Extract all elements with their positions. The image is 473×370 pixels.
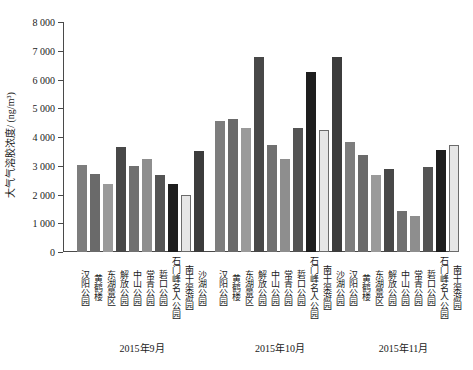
- category-label: 黄鹤楼: [358, 256, 371, 319]
- category-label: 石门峰名人公园: [306, 256, 319, 319]
- category-label: 汉阳公园: [215, 256, 228, 319]
- y-tick-label: 0: [50, 247, 55, 258]
- bar: [397, 211, 407, 252]
- bar: [371, 175, 381, 252]
- category-label: 硩口公园: [155, 256, 168, 319]
- category-label: 黄鹤楼: [228, 256, 241, 319]
- bar: [293, 128, 303, 252]
- group-month-label: 2015年11月: [354, 340, 454, 355]
- bar: [90, 174, 100, 252]
- plot-area: 01 0002 0003 0004 0005 0006 0007 0008 00…: [63, 22, 459, 252]
- bar: [77, 165, 87, 252]
- category-label: 常青公园: [142, 256, 155, 319]
- y-tick-label: 2 000: [33, 189, 56, 200]
- bar: [423, 167, 433, 252]
- category-label: 中山公园: [267, 256, 280, 319]
- category-label: 解放公园: [384, 256, 397, 319]
- category-label: 黄鹤楼: [90, 256, 103, 319]
- bar: [267, 145, 277, 252]
- bar: [280, 159, 290, 252]
- category-label: 中山公园: [397, 256, 410, 319]
- category-label: 硩口公园: [293, 256, 306, 319]
- category-label: 东湖景区: [103, 256, 116, 319]
- bar-group: [215, 22, 345, 252]
- y-tick-label: 1 000: [33, 218, 56, 229]
- bar: [181, 195, 191, 252]
- y-tick-label: 8 000: [33, 17, 56, 28]
- category-label: 解放公园: [254, 256, 267, 319]
- bar-groups: [63, 22, 459, 252]
- y-tick-label: 7 000: [33, 45, 56, 56]
- bar: [410, 216, 420, 252]
- group-month-label: 2015年10月: [230, 340, 330, 355]
- category-label: 沙湖公园: [332, 256, 345, 319]
- category-label-group: 汉阳公园黄鹤楼东湖景区解放公园中山公园常青公园硩口公园石门峰名人公园南干渠游园: [345, 256, 462, 319]
- category-label: 常青公园: [280, 256, 293, 319]
- bar-group: [345, 22, 462, 252]
- category-label: 石门峰名人公园: [436, 256, 449, 319]
- category-label: 南干渠游园: [319, 256, 332, 319]
- category-label-group: 汉阳公园黄鹤楼东湖景区解放公园中山公园常青公园硩口公园石门峰名人公园南干渠游园沙…: [215, 256, 345, 319]
- bar: [103, 184, 113, 252]
- bar: [116, 147, 126, 252]
- bar: [332, 57, 342, 253]
- bar: [254, 57, 264, 253]
- bar: [306, 72, 316, 252]
- bar: [194, 151, 204, 252]
- y-tick-label: 4 000: [33, 132, 56, 143]
- bar: [384, 169, 394, 252]
- bar: [129, 166, 139, 252]
- bar: [142, 159, 152, 252]
- bar: [241, 128, 251, 252]
- y-axis-title: 大气气溶胶浓度/ (ng/m³): [2, 0, 18, 60]
- group-month-labels: 2015年9月2015年10月2015年11月: [63, 340, 459, 356]
- bar: [228, 119, 238, 252]
- category-label: 硩口公园: [423, 256, 436, 319]
- category-label: 南干渠游园: [449, 256, 462, 319]
- category-labels: 汉阳公园黄鹤楼东湖景区解放公园中山公园常青公园硩口公园石门峰名人公园南干渠游园沙…: [63, 256, 459, 342]
- category-label-group: 汉阳公园黄鹤楼东湖景区解放公园中山公园常青公园硩口公园石门峰名人公园南干渠游园沙…: [77, 256, 207, 319]
- y-tick-label: 3 000: [33, 160, 56, 171]
- category-label: 汉阳公园: [77, 256, 90, 319]
- y-tick-label: 5 000: [33, 103, 56, 114]
- category-label: 汉阳公园: [345, 256, 358, 319]
- bar: [436, 150, 446, 252]
- bar-chart: 大气气溶胶浓度/ (ng/m³) 01 0002 0003 0004 0005 …: [0, 0, 473, 370]
- category-label: 石门峰名人公园: [168, 256, 181, 319]
- category-label: 东湖景区: [241, 256, 254, 319]
- category-label: 东湖景区: [371, 256, 384, 319]
- bar: [215, 121, 225, 252]
- bar: [358, 155, 368, 252]
- category-label: 解放公园: [116, 256, 129, 319]
- bar: [319, 130, 329, 252]
- category-label: 南干渠游园: [181, 256, 194, 319]
- bar: [449, 145, 459, 252]
- category-label: 沙湖公园: [194, 256, 207, 319]
- bar: [345, 142, 355, 252]
- y-tick: [58, 252, 63, 253]
- y-tick-label: 6 000: [33, 74, 56, 85]
- bar: [155, 175, 165, 252]
- category-label: 中山公园: [129, 256, 142, 319]
- category-label: 常青公园: [410, 256, 423, 319]
- bar: [168, 184, 178, 252]
- bar-group: [77, 22, 207, 252]
- group-month-label: 2015年9月: [92, 340, 192, 355]
